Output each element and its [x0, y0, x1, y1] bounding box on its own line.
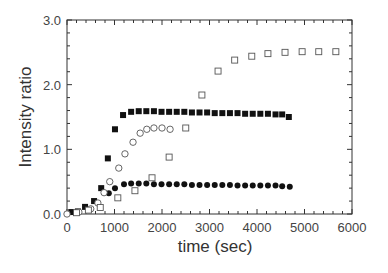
x-tick-label: 6000	[338, 220, 367, 235]
data-point	[197, 109, 203, 115]
data-point	[265, 183, 271, 189]
data-point	[333, 49, 339, 55]
scatter-chart: 0100020003000400050006000 0.01.02.03.0 t…	[0, 0, 388, 273]
data-point	[219, 110, 225, 116]
x-tick-label: 1000	[100, 220, 129, 235]
data-point	[174, 181, 180, 187]
data-point	[137, 130, 143, 136]
data-point	[273, 111, 279, 117]
data-point	[212, 182, 218, 188]
data-point	[286, 114, 292, 120]
x-tick-label: 5000	[290, 220, 319, 235]
data-point	[219, 182, 225, 188]
data-point	[189, 182, 195, 188]
data-point	[242, 111, 248, 117]
data-point	[105, 155, 111, 161]
x-tick-label: 3000	[195, 220, 224, 235]
data-point	[166, 181, 172, 187]
data-point	[159, 181, 165, 187]
data-point	[197, 182, 203, 188]
data-point	[181, 109, 187, 115]
data-point	[279, 183, 285, 189]
series-circle-open	[64, 125, 173, 217]
data-point	[143, 108, 149, 114]
data-point	[159, 109, 165, 115]
data-point	[115, 195, 121, 201]
data-point	[112, 185, 118, 191]
data-point	[287, 184, 293, 190]
series-square-filled	[68, 108, 292, 215]
x-tick-labels: 0100020003000400050006000	[63, 220, 366, 235]
data-point	[250, 183, 256, 189]
data-point	[174, 109, 180, 115]
data-point	[116, 165, 122, 171]
data-point	[299, 49, 305, 55]
data-point	[166, 154, 172, 160]
data-point	[204, 109, 210, 115]
y-axis-title: Intensity ratio	[16, 66, 35, 167]
data-point	[212, 110, 218, 116]
data-point	[136, 108, 142, 114]
data-point	[159, 125, 165, 131]
data-point	[101, 189, 107, 195]
data-point	[136, 181, 142, 187]
data-point	[120, 112, 126, 118]
data-point	[250, 111, 256, 117]
data-point	[316, 49, 322, 55]
data-point	[166, 109, 172, 115]
data-point	[64, 211, 70, 217]
data-point	[257, 111, 263, 117]
data-point	[189, 109, 195, 115]
data-point	[151, 108, 157, 114]
data-point	[232, 57, 238, 63]
data-point	[273, 183, 279, 189]
y-tick-label: 2.0	[43, 78, 61, 93]
data-point	[167, 126, 173, 132]
data-point	[151, 181, 157, 187]
data-point	[235, 110, 241, 116]
y-tick-labels: 0.01.02.03.0	[43, 13, 61, 222]
data-point	[279, 111, 285, 117]
data-point	[257, 183, 263, 189]
x-tick-label: 4000	[243, 220, 272, 235]
data-point	[265, 111, 271, 117]
data-point	[132, 188, 138, 194]
data-point	[151, 125, 157, 131]
data-point	[215, 68, 221, 74]
data-point	[112, 126, 118, 132]
data-point	[227, 182, 233, 188]
x-tick-label: 2000	[148, 220, 177, 235]
data-point	[144, 126, 150, 132]
y-tick-label: 3.0	[43, 13, 61, 28]
data-point	[128, 109, 134, 115]
data-point	[130, 139, 136, 145]
data-point	[204, 182, 210, 188]
data-points	[64, 49, 339, 218]
data-point	[149, 175, 155, 181]
data-point	[121, 181, 127, 187]
data-point	[183, 125, 189, 131]
x-tick-label: 0	[63, 220, 70, 235]
data-point	[227, 110, 233, 116]
data-point	[235, 183, 241, 189]
data-point	[107, 178, 113, 184]
data-point	[74, 210, 80, 216]
data-point	[97, 205, 103, 211]
data-point	[128, 181, 134, 187]
data-point	[282, 49, 288, 55]
x-axis-title: time (sec)	[178, 237, 253, 256]
data-point	[249, 53, 255, 59]
data-point	[143, 181, 149, 187]
data-point	[199, 92, 205, 98]
y-tick-label: 0.0	[43, 207, 61, 222]
data-point	[242, 183, 248, 189]
data-point	[122, 151, 128, 157]
data-point	[265, 51, 271, 57]
y-tick-label: 1.0	[43, 142, 61, 157]
data-point	[181, 181, 187, 187]
data-point	[85, 207, 91, 213]
